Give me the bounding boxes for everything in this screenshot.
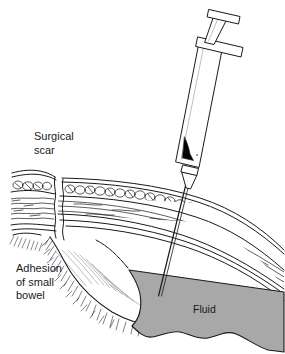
- label-adhesion-of-small-bowel: Adhesion of small bowel: [16, 262, 62, 303]
- label-fluid: Fluid: [193, 303, 216, 317]
- subcutaneous-fat-layer: [11, 191, 55, 195]
- label-surgical-scar: Surgical scar: [34, 130, 74, 157]
- illustration-canvas: Surgical scar Adhesion of small bowel Fl…: [0, 0, 285, 354]
- abdominal-wall-left: [10, 170, 56, 235]
- peritoneum-layer: [11, 224, 55, 226]
- syringe: [176, 10, 243, 190]
- syringe-barrel: [176, 42, 223, 168]
